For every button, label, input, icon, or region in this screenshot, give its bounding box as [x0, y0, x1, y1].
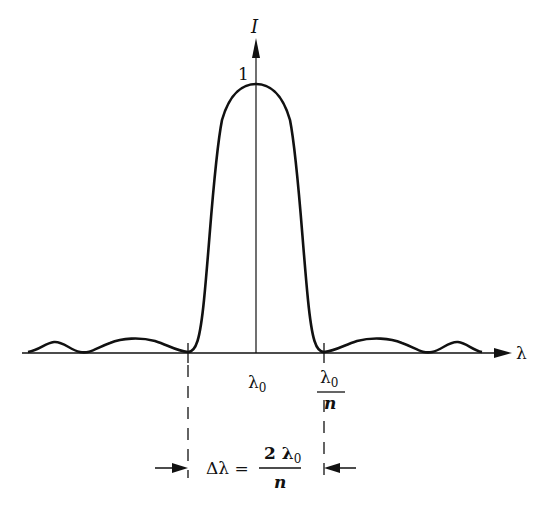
- peak-value-label: 1: [238, 64, 249, 84]
- y-axis-arrowhead: [252, 38, 260, 58]
- width-label-prefix: Δλ =: [206, 458, 249, 478]
- left-width-arrowhead: [172, 463, 188, 473]
- x-axis-arrowhead: [494, 348, 512, 358]
- intensity-diagram: I 1 λ λ0 λ0 n Δλ = 2 λ0 n: [0, 0, 543, 505]
- half-width-numerator: λ0: [320, 367, 338, 390]
- y-axis-label: I: [250, 16, 259, 37]
- half-width-denominator: n: [324, 393, 336, 413]
- center-wavelength-label: λ0: [248, 372, 266, 395]
- intensity-curve: [28, 84, 482, 352]
- x-axis-label: λ: [516, 343, 527, 363]
- width-label-denominator: n: [274, 472, 286, 492]
- width-label-numerator: 2 λ0: [264, 443, 301, 466]
- right-width-arrowhead: [324, 463, 340, 473]
